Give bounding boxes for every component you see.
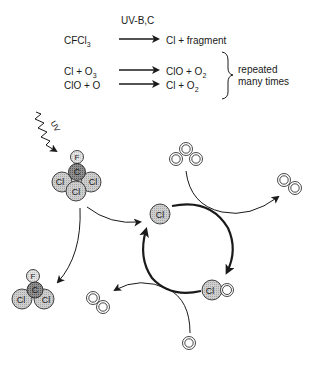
svg-text:Cl: Cl xyxy=(72,187,81,197)
brace-icon xyxy=(222,52,233,99)
svg-text:Cl: Cl xyxy=(17,295,26,305)
cycle-arrow-cl-to-clo xyxy=(172,204,233,272)
equations-block: UV-B,C CFCl3 Cl + fragment Cl + O3 ClO +… xyxy=(64,15,289,99)
arrow-oxygen-atom-to-o2 xyxy=(115,283,190,333)
equation-2-products: ClO + O2 xyxy=(166,66,206,79)
svg-text:Cl: Cl xyxy=(42,295,51,305)
uv-wave-arrow-icon xyxy=(35,112,56,151)
svg-text:F: F xyxy=(31,272,36,281)
oxygen-molecule-lower xyxy=(87,292,110,314)
uv-label: UV xyxy=(48,119,62,134)
cfcl2-labels: F C Cl Cl xyxy=(17,272,51,306)
svg-text:C: C xyxy=(74,167,81,177)
arrow-to-chlorine xyxy=(87,207,140,222)
oxygen-molecule-upper xyxy=(278,174,302,195)
brace-note-line2: many times xyxy=(238,76,289,87)
equation-2-reactants: Cl + O3 xyxy=(64,66,97,79)
catalyst-label: UV-B,C xyxy=(121,15,154,26)
svg-text:Cl: Cl xyxy=(89,177,98,187)
ozone-depletion-diagram: UV-B,C CFCl3 Cl + fragment Cl + O3 ClO +… xyxy=(0,0,319,368)
svg-text:Cl: Cl xyxy=(56,177,65,187)
atomic-oxygen xyxy=(183,337,196,350)
svg-text:Cl: Cl xyxy=(206,286,215,296)
svg-text:C: C xyxy=(32,285,39,295)
uv-radiation: UV xyxy=(35,112,62,151)
equation-1-products: Cl + fragment xyxy=(166,35,227,46)
equation-3-products: Cl + O2 xyxy=(166,80,199,93)
equation-1-reactants: CFCl3 xyxy=(64,35,91,48)
chlorine-monoxide: Cl xyxy=(202,280,234,300)
svg-text:F: F xyxy=(75,153,80,162)
brace-note-line1: repeated xyxy=(238,64,277,75)
chlorine-radical: Cl xyxy=(150,204,170,224)
svg-text:Cl: Cl xyxy=(156,210,165,220)
arrow-to-cfcl2 xyxy=(58,208,80,282)
equation-3-reactants: ClO + O xyxy=(64,80,101,91)
ozone-molecule xyxy=(170,143,203,166)
